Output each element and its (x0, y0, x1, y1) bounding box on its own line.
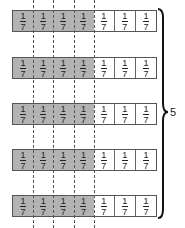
shaded-fraction-cell: 17 (53, 150, 73, 170)
denominator: 7 (81, 23, 86, 31)
fraction-cell: 17 (94, 104, 115, 124)
numerator: 1 (122, 105, 127, 113)
numerator: 1 (21, 105, 26, 113)
numerator: 1 (81, 151, 86, 159)
denominator: 7 (21, 116, 26, 124)
denominator: 7 (101, 116, 106, 124)
numerator: 1 (41, 105, 46, 113)
numerator: 1 (41, 197, 46, 205)
shaded-fraction-cell: 17 (13, 104, 33, 124)
numerator: 1 (81, 197, 86, 205)
shaded-fraction-cell: 17 (73, 196, 93, 216)
denominator: 7 (61, 23, 66, 31)
numerator: 1 (21, 12, 26, 20)
numerator: 1 (101, 12, 106, 20)
denominator: 7 (41, 116, 46, 124)
numerator: 1 (101, 197, 106, 205)
denominator: 7 (143, 70, 148, 78)
shaded-fraction-cell: 17 (53, 11, 73, 31)
shaded-fraction-cell: 17 (33, 196, 53, 216)
denominator: 7 (101, 208, 106, 216)
numerator: 1 (122, 197, 127, 205)
numerator: 1 (61, 59, 66, 67)
denominator: 7 (41, 70, 46, 78)
shaded-fraction-cell: 17 (73, 104, 93, 124)
denominator: 7 (21, 70, 26, 78)
numerator: 1 (143, 151, 148, 159)
denominator: 7 (41, 208, 46, 216)
denominator: 7 (122, 70, 127, 78)
fraction-cell: 17 (115, 104, 136, 124)
numerator: 1 (61, 105, 66, 113)
shaded-fraction-cell: 17 (53, 196, 73, 216)
shaded-fraction-cell: 17 (33, 150, 53, 170)
numerator: 1 (101, 105, 106, 113)
fraction-cell: 17 (115, 11, 136, 31)
numerator: 1 (41, 12, 46, 20)
shaded-fraction-cell: 17 (33, 58, 53, 78)
numerator: 1 (101, 151, 106, 159)
denominator: 7 (21, 23, 26, 31)
numerator: 1 (61, 197, 66, 205)
curly-brace-icon (157, 8, 169, 220)
numerator: 1 (21, 197, 26, 205)
denominator: 7 (61, 162, 66, 170)
shaded-fraction-cell: 17 (73, 11, 93, 31)
numerator: 1 (61, 151, 66, 159)
denominator: 7 (41, 162, 46, 170)
shaded-fraction-cell: 17 (33, 104, 53, 124)
numerator: 1 (143, 197, 148, 205)
numerator: 1 (143, 59, 148, 67)
denominator: 7 (81, 208, 86, 216)
denominator: 7 (81, 162, 86, 170)
dashed-divider (53, 0, 54, 228)
numerator: 1 (143, 105, 148, 113)
denominator: 7 (101, 162, 106, 170)
numerator: 1 (21, 151, 26, 159)
dashed-divider (33, 0, 34, 228)
shaded-fraction-cell: 17 (53, 104, 73, 124)
denominator: 7 (41, 23, 46, 31)
dashed-divider (74, 0, 75, 228)
numerator: 1 (61, 12, 66, 20)
fraction-cell: 17 (115, 150, 136, 170)
denominator: 7 (21, 208, 26, 216)
denominator: 7 (101, 23, 106, 31)
denominator: 7 (122, 162, 127, 170)
numerator: 1 (81, 59, 86, 67)
shaded-fraction-cell: 17 (73, 58, 93, 78)
fraction-cell: 17 (136, 58, 156, 78)
fraction-cell: 17 (115, 58, 136, 78)
shaded-fraction-cell: 17 (13, 150, 33, 170)
numerator: 1 (41, 151, 46, 159)
fraction-cell: 17 (136, 104, 156, 124)
denominator: 7 (122, 208, 127, 216)
denominator: 7 (81, 70, 86, 78)
denominator: 7 (81, 116, 86, 124)
fraction-cell: 17 (94, 58, 115, 78)
denominator: 7 (143, 116, 148, 124)
numerator: 1 (101, 59, 106, 67)
fraction-cell: 17 (136, 11, 156, 31)
denominator: 7 (122, 116, 127, 124)
denominator: 7 (122, 23, 127, 31)
numerator: 1 (81, 105, 86, 113)
numerator: 1 (122, 59, 127, 67)
denominator: 7 (143, 208, 148, 216)
fraction-cell: 17 (136, 196, 156, 216)
denominator: 7 (101, 70, 106, 78)
shaded-fraction-cell: 17 (13, 11, 33, 31)
numerator: 1 (81, 12, 86, 20)
numerator: 1 (41, 59, 46, 67)
shaded-fraction-cell: 17 (73, 150, 93, 170)
denominator: 7 (61, 116, 66, 124)
fraction-cell: 17 (94, 196, 115, 216)
denominator: 7 (143, 23, 148, 31)
fraction-cell: 17 (115, 196, 136, 216)
shaded-fraction-cell: 17 (13, 58, 33, 78)
numerator: 1 (143, 12, 148, 20)
fraction-cell: 17 (94, 150, 115, 170)
denominator: 7 (61, 70, 66, 78)
brace-count-label: 5 (170, 106, 176, 118)
fraction-cell: 17 (94, 11, 115, 31)
